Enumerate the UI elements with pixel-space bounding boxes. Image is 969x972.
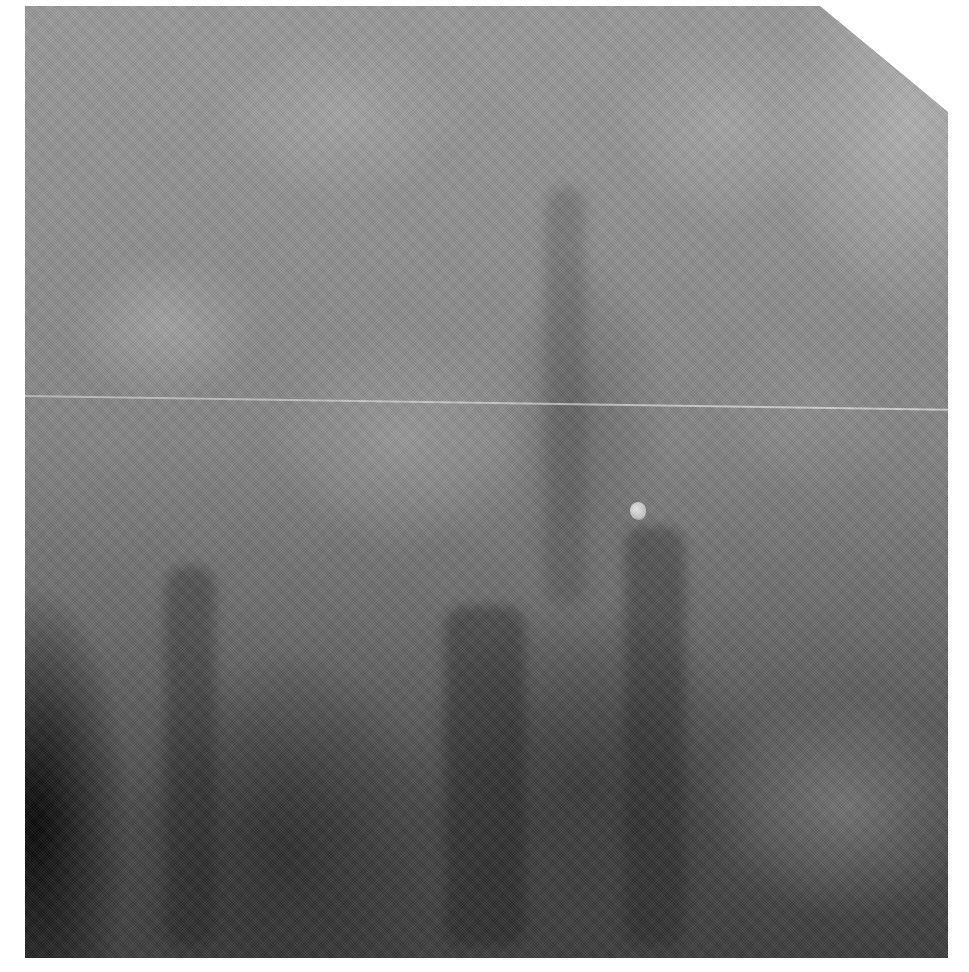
dense-strand: [625, 526, 685, 946]
mammogram-image: [25, 6, 948, 958]
dense-strand: [445, 606, 525, 946]
dense-strand: [165, 566, 215, 946]
page: [0, 0, 969, 972]
bright-tissue-region: [728, 6, 948, 426]
dense-strand: [545, 186, 585, 606]
bright-focal-density: [630, 502, 646, 520]
